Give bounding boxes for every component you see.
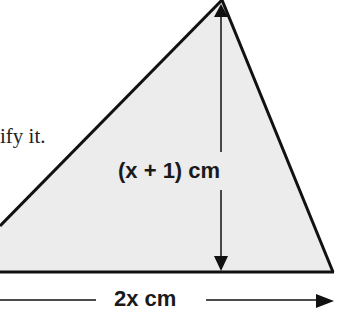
body-text-fragment: ify it. (0, 124, 46, 149)
height-label: (x + 1) cm (116, 158, 222, 184)
triangle-shape (0, 0, 333, 272)
base-label: 2x cm (110, 286, 180, 312)
base-arrow-head (316, 294, 334, 308)
